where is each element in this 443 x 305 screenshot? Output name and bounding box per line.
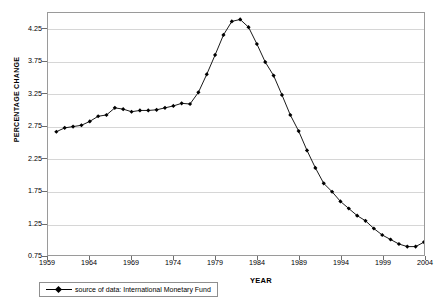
y-axis-tick-label: 3.25 bbox=[0, 90, 42, 97]
data-point-marker bbox=[129, 110, 133, 114]
x-axis-tick bbox=[257, 256, 258, 260]
y-axis-tick-label: 3.75 bbox=[0, 57, 42, 64]
x-axis-tick-label: 1999 bbox=[363, 259, 403, 266]
data-point-marker bbox=[63, 126, 67, 130]
data-point-marker bbox=[88, 119, 92, 123]
y-axis-tick-label: 1.75 bbox=[0, 187, 42, 194]
chart-container: PERCENTAGE CHANGE 4.253.753.252.752.251.… bbox=[0, 0, 443, 305]
x-axis-tick bbox=[89, 256, 90, 260]
data-point-marker bbox=[230, 19, 234, 23]
y-axis-tick-label: 2.75 bbox=[0, 122, 42, 129]
data-point-marker bbox=[121, 107, 125, 111]
data-point-marker bbox=[138, 108, 142, 112]
x-axis-tick-label: 1959 bbox=[27, 259, 67, 266]
data-point-marker bbox=[54, 130, 58, 134]
data-point-marker bbox=[263, 60, 267, 64]
legend-label: source of data: International Monetary F… bbox=[75, 286, 211, 293]
x-axis-tick-label: 1964 bbox=[69, 259, 109, 266]
legend: source of data: International Monetary F… bbox=[39, 282, 218, 297]
x-axis-tick-label: 2004 bbox=[405, 259, 443, 266]
x-axis-tick bbox=[341, 256, 342, 260]
data-point-marker bbox=[213, 53, 217, 57]
data-point-marker bbox=[280, 93, 284, 97]
data-point-marker bbox=[146, 108, 150, 112]
data-point-marker bbox=[405, 245, 409, 249]
data-point-marker bbox=[305, 148, 309, 152]
y-axis-tick-label: 2.25 bbox=[0, 155, 42, 162]
x-axis-tick bbox=[299, 256, 300, 260]
data-point-marker bbox=[79, 123, 83, 127]
data-point-marker bbox=[171, 104, 175, 108]
data-point-marker bbox=[388, 237, 392, 241]
x-axis-tick bbox=[215, 256, 216, 260]
data-point-marker bbox=[96, 114, 100, 118]
data-point-marker bbox=[272, 74, 276, 78]
legend-diamond-marker-icon bbox=[46, 285, 72, 294]
x-axis-tick-label: 1979 bbox=[195, 259, 235, 266]
x-axis-tick-label: 1969 bbox=[111, 259, 151, 266]
data-point-marker bbox=[71, 124, 75, 128]
x-axis-tick-label: 1994 bbox=[321, 259, 361, 266]
data-point-marker bbox=[221, 33, 225, 37]
x-axis-tick-label: 1974 bbox=[153, 259, 193, 266]
data-point-marker bbox=[313, 166, 317, 170]
data-point-marker bbox=[288, 113, 292, 117]
plot-area bbox=[47, 12, 425, 256]
x-axis-tick bbox=[173, 256, 174, 260]
data-point-marker bbox=[414, 245, 418, 249]
data-point-marker bbox=[205, 72, 209, 76]
x-axis-tick-label: 1989 bbox=[279, 259, 319, 266]
data-point-marker bbox=[397, 242, 401, 246]
x-axis-tick-label: 1984 bbox=[237, 259, 277, 266]
data-point-marker bbox=[163, 106, 167, 110]
data-point-marker bbox=[297, 129, 301, 133]
y-axis-tick-label: 4.25 bbox=[0, 25, 42, 32]
x-axis-title: YEAR bbox=[250, 276, 272, 285]
x-axis-tick bbox=[383, 256, 384, 260]
data-point-marker bbox=[155, 108, 159, 112]
data-series-line bbox=[48, 13, 424, 255]
data-point-marker bbox=[255, 42, 259, 46]
x-axis-tick bbox=[47, 256, 48, 260]
data-point-marker bbox=[180, 101, 184, 105]
x-axis-tick bbox=[425, 256, 426, 260]
x-axis-tick bbox=[131, 256, 132, 260]
y-axis-tick-label: 1.25 bbox=[0, 220, 42, 227]
